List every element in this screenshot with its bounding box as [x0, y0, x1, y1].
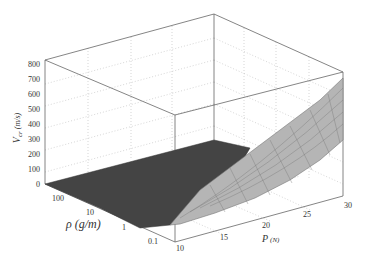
svg-text:200: 200	[28, 150, 40, 159]
svg-text:600: 600	[28, 90, 40, 99]
svg-text:400: 400	[28, 120, 40, 129]
z-axis-label: Vcr(m/s)	[11, 112, 24, 143]
rho-axis-label: ρ (g/m)	[65, 217, 101, 231]
svg-text:10: 10	[86, 208, 94, 217]
svg-text:700: 700	[28, 75, 40, 84]
surface-plot: 0 100 200 300 400 500 600 700 800 Vcr(m/…	[0, 0, 365, 264]
surface	[45, 78, 343, 228]
svg-text:500: 500	[28, 105, 40, 114]
svg-text:0: 0	[36, 180, 40, 189]
p-axis-label: P(N)	[261, 233, 280, 244]
svg-text:800: 800	[28, 60, 40, 69]
svg-text:20: 20	[262, 221, 270, 230]
svg-text:100: 100	[28, 165, 40, 174]
svg-text:25: 25	[303, 210, 311, 219]
svg-text:100: 100	[52, 194, 64, 203]
svg-text:1: 1	[122, 223, 126, 232]
svg-text:15: 15	[220, 233, 228, 242]
z-axis-ticks: 0 100 200 300 400 500 600 700 800	[28, 60, 40, 189]
svg-text:30: 30	[344, 201, 352, 210]
svg-text:10: 10	[176, 244, 184, 253]
svg-text:0.1: 0.1	[148, 237, 158, 246]
svg-text:300: 300	[28, 135, 40, 144]
